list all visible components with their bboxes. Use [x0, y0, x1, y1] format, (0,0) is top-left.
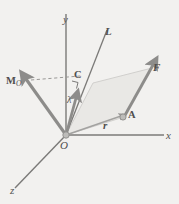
force-vector-F-label: F — [153, 62, 160, 73]
moment-M-letter: M — [6, 75, 16, 86]
unit-vector-lambda-label: λ — [67, 95, 71, 105]
z-axis-line — [15, 135, 66, 188]
x-axis-label: x — [166, 130, 171, 141]
right-angle-marker — [72, 81, 78, 89]
point-A-label: A — [128, 110, 136, 121]
z-axis-label: z — [10, 185, 14, 196]
moment-vector-MO-label: MO — [6, 76, 21, 87]
point-C-label: C — [74, 70, 82, 81]
line-L-label: L — [105, 26, 112, 37]
moment-O-subscript: O — [16, 79, 21, 88]
position-vector-r-label: r — [103, 120, 107, 131]
vector-diagram-figure: y x z L F A C O MO λ r — [0, 0, 179, 204]
dashed-projection-line — [31, 76, 80, 80]
point-O-dot — [63, 132, 69, 138]
moment-vector-MO — [26, 79, 66, 135]
origin-O-label: O — [60, 140, 68, 151]
y-axis-label: y — [63, 14, 68, 25]
diagram-canvas — [0, 0, 179, 204]
point-A-dot — [120, 114, 126, 120]
